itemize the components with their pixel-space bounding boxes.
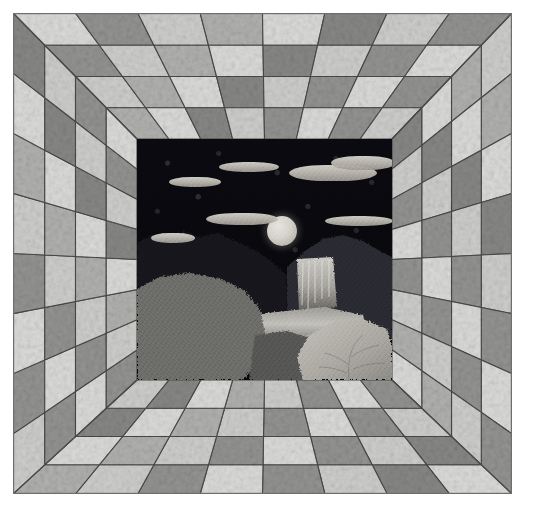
fabric-grain-overlay [137, 139, 392, 380]
border-patch [392, 258, 422, 296]
border-patch [208, 437, 263, 465]
border-patch [45, 255, 76, 307]
border-patch [200, 465, 263, 494]
quilt-photograph: Attic Windows Perspective Quilt with Moo… [0, 0, 535, 521]
border-patch [264, 408, 311, 436]
border-patch [452, 255, 482, 307]
border-patch [264, 380, 303, 408]
border-patch [13, 254, 45, 314]
border-patch [13, 193, 45, 255]
border-patch [76, 257, 107, 302]
quilt-body [13, 13, 512, 494]
border-patch [452, 203, 482, 257]
border-patch [263, 13, 325, 45]
border-patch [217, 77, 264, 108]
landscape-center-panel [137, 139, 392, 380]
border-patch [106, 258, 137, 296]
border-patch [263, 465, 325, 494]
border-patch [263, 45, 318, 76]
border-patch [481, 254, 512, 314]
border-patch [264, 77, 311, 108]
border-patch [422, 257, 452, 302]
border-patch [208, 45, 263, 76]
border-patch [481, 193, 512, 255]
border-patch [200, 13, 263, 45]
border-patch [263, 437, 318, 465]
